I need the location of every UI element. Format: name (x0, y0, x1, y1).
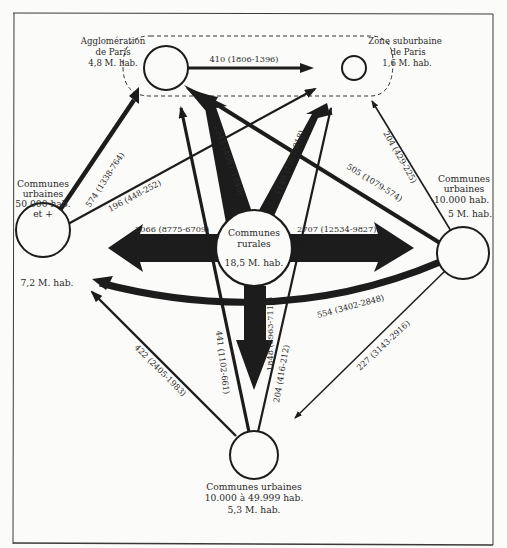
svg-text:Agglomération: Agglomération (80, 36, 146, 46)
svg-text:rurales: rurales (237, 238, 271, 249)
svg-text:et +: et + (33, 208, 53, 219)
flow-label-paris-to-suburb: 410 (1806-1396) (209, 54, 278, 64)
svg-text:urbaines: urbaines (444, 183, 485, 194)
node-mid-towns (230, 431, 278, 479)
svg-text:7,2 M. hab.: 7,2 M. hab. (21, 277, 74, 288)
svg-text:10.000 à 49.999 hab.: 10.000 à 49.999 hab. (205, 492, 304, 503)
label-paris: Agglomération de Paris 4,8 M. hab. (80, 36, 146, 68)
flow-label-big-to-suburb: 196 (448-252) (106, 177, 162, 213)
migration-flow-diagram: Agglomération de Paris 4,8 M. hab. Zone … (0, 0, 507, 548)
label-mid-towns: Communes urbaines 10.000 à 49.999 hab. 5… (205, 481, 304, 515)
flow-label-rural-to-big: 2066 (8775-6709) (135, 224, 209, 234)
svg-text:de Paris: de Paris (95, 47, 130, 57)
flow-label-mid-to-big: 422 (2405-1983) (133, 342, 189, 398)
svg-text:Communes: Communes (228, 227, 280, 238)
svg-text:4,8 M. hab.: 4,8 M. hab. (88, 58, 138, 68)
label-suburb: Zone suburbaine de Paris 1,6 M. hab. (368, 36, 442, 68)
flow-label-small-to-paris: 505 (1079-574) (345, 161, 404, 203)
flow-label-rural-to-small: 2707 (12534-9827) (297, 224, 376, 234)
flow-label-small-to-mid: 227 (3143-2916) (355, 318, 412, 372)
svg-text:5 M. hab.: 5 M. hab. (448, 208, 492, 219)
svg-text:18,5 M. hab.: 18,5 M. hab. (225, 257, 284, 268)
svg-text:5,3 M. hab.: 5,3 M. hab. (228, 504, 281, 515)
flow-mid-to-big (92, 292, 236, 436)
svg-text:-10.000 hab.: -10.000 hab. (431, 194, 489, 205)
node-paris (144, 46, 188, 90)
flow-label-rural-to-mid: 1848 (8963-7115) (265, 297, 275, 371)
node-small-towns (437, 227, 489, 279)
node-suburb (342, 56, 366, 80)
flow-label-rural-to-suburb: 1149 (1967-818) (273, 129, 307, 197)
flow-label-small-to-suburb: 204 (429-225) (381, 129, 419, 185)
flow-paris-to-suburb (188, 63, 314, 73)
svg-text:Communes urbaines: Communes urbaines (206, 481, 302, 492)
svg-text:de Paris: de Paris (390, 47, 425, 57)
svg-text:1,6 M. hab.: 1,6 M. hab. (382, 58, 432, 68)
flow-small-to-mid (295, 268, 448, 418)
svg-text:Zone suburbaine: Zone suburbaine (368, 36, 442, 46)
